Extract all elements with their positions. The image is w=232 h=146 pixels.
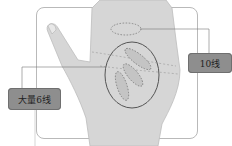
label-10-lines: 10线 (188, 53, 232, 73)
label-left-text: 大量6线 (18, 93, 51, 106)
palm-illustration (0, 0, 232, 146)
label-right-text: 10线 (200, 57, 220, 70)
label-many-6-lines: 大量6线 (8, 88, 61, 110)
hand-shape (47, 0, 180, 146)
